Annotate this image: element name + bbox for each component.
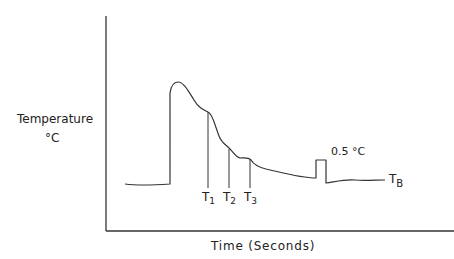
- x-axis-label: Time (Seconds): [210, 239, 315, 253]
- t1-label: T1: [201, 190, 215, 206]
- temperature-chart: T1 T2 T3 0.5 °C TB Temperature °C Time (…: [0, 0, 454, 259]
- y-axis-label-line1: Temperature: [16, 112, 93, 126]
- y-axis-label-line2: °C: [45, 131, 59, 145]
- temperature-trace: [125, 82, 385, 185]
- baseline-label: TB: [388, 172, 403, 189]
- calibration-label: 0.5 °C: [331, 145, 365, 158]
- t3-label: T3: [243, 190, 257, 206]
- t2-label: T2: [222, 190, 236, 206]
